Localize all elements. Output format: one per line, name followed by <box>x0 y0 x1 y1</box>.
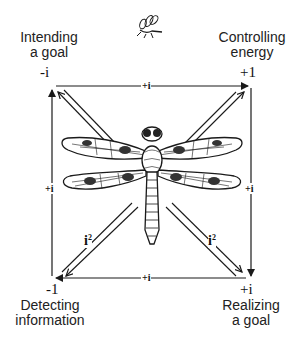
corner-label-detecting-information: Detecting information <box>2 298 98 328</box>
edge-label-top: +i <box>141 80 151 91</box>
diag-exponent: 2 <box>88 233 92 242</box>
corner-label-controlling-energy: Controlling energy <box>204 30 300 60</box>
dragonfly-icon <box>62 127 242 244</box>
edge-label-bottom: +i <box>141 272 151 283</box>
label-line: information <box>2 313 98 328</box>
edge-label-right: +i <box>244 183 254 194</box>
label-line: Controlling <box>204 30 300 45</box>
small-insect-icon <box>137 14 162 38</box>
label-line: Detecting <box>2 298 98 313</box>
label-line: energy <box>204 45 300 60</box>
corner-label-intending-goal: Intending a goal <box>6 30 92 60</box>
diagonal-label-lower-left: i2 <box>84 234 92 248</box>
label-line: Realizing <box>206 298 296 313</box>
corner-value-bottom-left: -1 <box>46 281 59 298</box>
diagonal-label-lower-right: i2 <box>208 234 216 248</box>
corner-value-top-left: -i <box>40 64 49 81</box>
corner-value-bottom-right: +i <box>240 281 253 298</box>
label-line: a goal <box>6 45 92 60</box>
diagonal-lower-right <box>166 203 242 276</box>
edge-label-left: +i <box>44 183 54 194</box>
label-line: Intending <box>6 30 92 45</box>
corner-value-top-right: +1 <box>240 64 256 81</box>
corner-label-realizing-goal: Realizing a goal <box>206 298 296 328</box>
label-line: a goal <box>206 313 296 328</box>
diag-exponent: 2 <box>212 233 216 242</box>
diagonal-lower-left <box>62 203 138 276</box>
